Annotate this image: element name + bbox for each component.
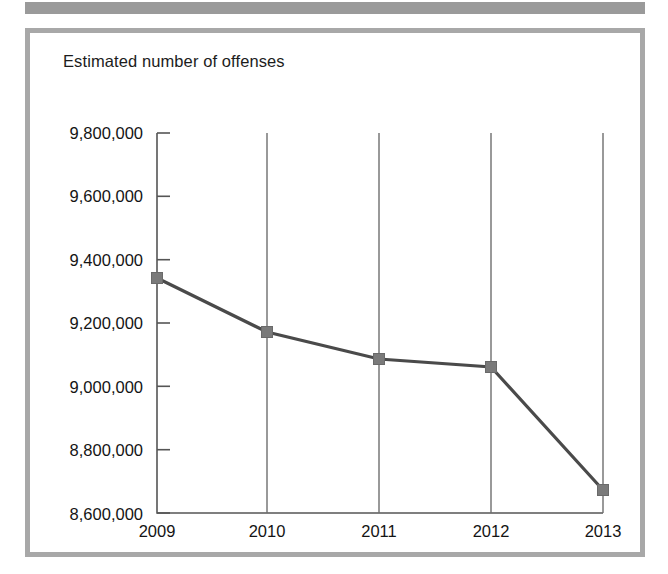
x-tick-label: 2011 (361, 522, 396, 540)
y-tick-label: 8,800,000 (70, 441, 143, 459)
y-tick-label: 9,800,000 (70, 124, 143, 142)
data-point-marker (486, 362, 497, 373)
y-tick-label: 9,400,000 (70, 251, 143, 269)
x-axis-tick-labels: 2009 2010 2011 2012 2013 (139, 522, 622, 540)
y-tick-label: 8,600,000 (70, 505, 143, 523)
data-point-marker (374, 354, 385, 365)
x-tick-label: 2012 (473, 522, 510, 540)
x-tick-label: 2010 (249, 522, 286, 540)
y-tick-label: 9,200,000 (70, 314, 143, 332)
line-chart-plot: 9,800,000 9,600,000 9,400,000 9,200,000 … (30, 33, 640, 552)
y-tick-label: 9,000,000 (70, 378, 143, 396)
figure-inner: Estimated number of offenses 9,800,000 9… (30, 33, 640, 552)
y-tick-label: 9,600,000 (70, 187, 143, 205)
data-series-markers (152, 273, 609, 496)
figure-frame: Estimated number of offenses 9,800,000 9… (25, 28, 645, 557)
y-axis-tick-labels: 9,800,000 9,600,000 9,400,000 9,200,000 … (70, 124, 143, 523)
data-point-marker (598, 485, 609, 496)
y-axis-tick-marks (157, 133, 170, 513)
data-series-line (157, 278, 603, 490)
axis-lines (157, 133, 603, 513)
vertical-gridlines (267, 133, 603, 513)
data-point-marker (262, 327, 273, 338)
data-point-marker (152, 273, 163, 284)
top-gray-band (25, 2, 645, 14)
x-tick-label: 2013 (585, 522, 622, 540)
x-tick-label: 2009 (139, 522, 176, 540)
